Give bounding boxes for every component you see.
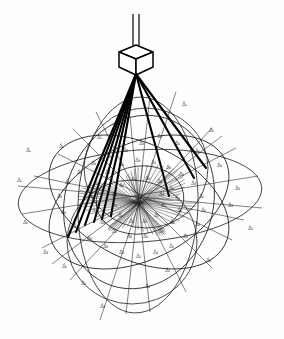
point-label: d₅₅ bbox=[176, 195, 180, 199]
point-label: d₄₉ bbox=[113, 228, 117, 232]
point-label: d₇ bbox=[18, 177, 21, 181]
point-label: d₂₁ bbox=[108, 153, 112, 157]
point-label: d₅₀ bbox=[128, 233, 132, 237]
point-label: d₄₇ bbox=[93, 207, 97, 211]
point-label: d₃₂ bbox=[154, 249, 158, 253]
point-label: d₅₄ bbox=[178, 207, 182, 211]
point-label: d₄₆ bbox=[90, 193, 94, 197]
cubical-body bbox=[119, 45, 153, 75]
point-label: d₄₈ bbox=[101, 219, 105, 223]
point-label: d₅₁ bbox=[144, 233, 148, 237]
point-label: d₄₄ bbox=[106, 169, 110, 173]
point-label: d₆ bbox=[27, 147, 30, 151]
point-label: d₂₉ bbox=[104, 243, 108, 247]
point-label: d₄₂ bbox=[136, 157, 140, 161]
point-label: d₁₅ bbox=[218, 162, 222, 166]
point-label: d₄₃ bbox=[120, 161, 124, 165]
point-label: d₆₄ bbox=[130, 218, 134, 222]
figure-container: d₁d₂d₃d₄d₅d₆d₇d₈d₉d₁₀d₁₁d₁₂d₁₃d₁₄d₁₅d₁₆d… bbox=[0, 0, 284, 339]
point-label: d₆₇ bbox=[162, 202, 166, 206]
point-label: d₅₂ bbox=[159, 228, 163, 232]
point-label: d₅ bbox=[60, 143, 63, 147]
point-label: d₇₂ bbox=[166, 267, 170, 271]
point-label: d₁₃ bbox=[249, 225, 253, 229]
point-label: d₄ bbox=[98, 134, 101, 138]
point-label: d₂₆ bbox=[62, 209, 66, 213]
point-label: d₃₈ bbox=[192, 180, 196, 184]
point-label: d₁₁ bbox=[146, 283, 150, 287]
technical-diagram: d₁d₂d₃d₄d₅d₆d₇d₈d₉d₁₀d₁₁d₁₂d₁₃d₁₄d₁₅d₁₆d… bbox=[0, 0, 284, 339]
point-label: d₄₀ bbox=[167, 164, 171, 168]
point-label: d₅₆ bbox=[170, 185, 174, 189]
point-label: d₃₅ bbox=[196, 221, 200, 225]
point-label: d₂₄ bbox=[66, 179, 70, 183]
point-label: d₃₉ bbox=[180, 171, 184, 175]
point-label: d₂₅ bbox=[58, 193, 62, 197]
point-label: d₂₀ bbox=[124, 147, 128, 151]
point-label: d₁ bbox=[183, 101, 186, 105]
point-label: d₃₀ bbox=[120, 249, 124, 253]
point-label: d₁₄ bbox=[236, 185, 240, 189]
point-label: d₃₃ bbox=[170, 243, 174, 247]
point-label: d₃₆ bbox=[202, 207, 206, 211]
point-label: d₇₀ bbox=[44, 249, 48, 253]
point-label: d₆₀ bbox=[120, 182, 124, 186]
point-label: d₈ bbox=[24, 219, 27, 223]
point-label: d₆₅ bbox=[143, 218, 147, 222]
point-label: d₆₈ bbox=[160, 191, 164, 195]
point-label: d₉ bbox=[63, 263, 66, 267]
point-label: d₂₈ bbox=[88, 235, 92, 239]
point-label: d₄₁ bbox=[152, 159, 156, 163]
point-label: d₃₁ bbox=[137, 253, 141, 257]
point-label: d₅₈ bbox=[146, 175, 150, 179]
point-label: d₅₃ bbox=[171, 219, 175, 223]
point-label: d₂₃ bbox=[78, 169, 82, 173]
point-label: d₁₆ bbox=[196, 148, 200, 152]
point-label: d₆₉ bbox=[229, 202, 233, 206]
point-label: d₂₂ bbox=[92, 160, 96, 164]
point-label: d₆₁ bbox=[113, 191, 117, 195]
point-label: d₃ bbox=[118, 119, 121, 123]
point-label: d₅₉ bbox=[132, 176, 136, 180]
point-label: d₂₇ bbox=[74, 223, 78, 227]
point-label: d₅₇ bbox=[158, 178, 162, 182]
point-label: d₄₅ bbox=[95, 180, 99, 184]
point-label: d₂ bbox=[210, 127, 213, 131]
point-label: d₁₀ bbox=[101, 303, 105, 307]
point-label: d₁₉ bbox=[140, 140, 144, 144]
point-label: d₁₇ bbox=[176, 140, 180, 144]
point-label: d₆₆ bbox=[155, 212, 159, 216]
point-label: d₆₂ bbox=[113, 202, 117, 206]
point-label: d₃₇ bbox=[200, 193, 204, 197]
point-label: d₇₁ bbox=[82, 280, 86, 284]
point-label: d₁₂ bbox=[207, 257, 211, 261]
point-label: d₆₃ bbox=[119, 212, 123, 216]
point-label: d₃₄ bbox=[184, 233, 188, 237]
point-label: d₁₈ bbox=[158, 133, 162, 137]
